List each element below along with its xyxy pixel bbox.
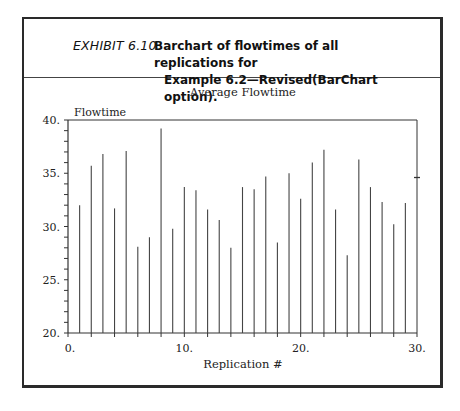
y-axis-label: Flowtime: [74, 106, 126, 119]
y-tick-label: 35.: [43, 167, 61, 180]
x-tick-label: 10.: [176, 342, 194, 355]
y-tick-label: 30.: [43, 221, 61, 234]
y-tick-label: 20.: [43, 327, 61, 340]
bars: [80, 129, 420, 333]
plot-axes: 20.25.30.35.40.0.10.20.30.: [43, 114, 426, 355]
x-tick-label: 20.: [292, 342, 310, 355]
x-axis-label: Replication #: [203, 357, 282, 371]
bar-chart: Average Flowtime Flowtime Replication # …: [0, 0, 460, 411]
x-tick-label: 30.: [408, 342, 426, 355]
chart-title: Average Flowtime: [189, 85, 296, 99]
x-tick-label: 0.: [65, 342, 76, 355]
y-tick-label: 40.: [43, 114, 61, 127]
y-tick-label: 25.: [43, 274, 61, 287]
